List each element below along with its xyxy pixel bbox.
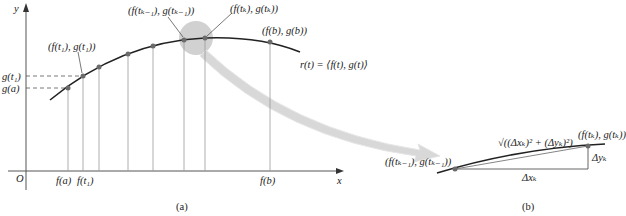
caption-a: (a)	[176, 201, 188, 213]
label-p1: (f(t₁), g(t₁))	[48, 41, 96, 53]
x-tick-f-t1: f(t₁)	[77, 175, 94, 187]
partition-lines	[68, 38, 270, 171]
label-pk: (f(tₖ), g(tₖ))	[230, 3, 278, 15]
y-axis-label: y	[13, 3, 19, 14]
dy-label: Δyₖ	[591, 152, 607, 163]
origin-label: O	[16, 173, 24, 184]
y-axis-arrow-icon	[23, 3, 29, 12]
caption-b: (b)	[522, 201, 535, 213]
x-axis-arrow-icon	[336, 168, 344, 174]
y-tick-g-a: g(a)	[2, 83, 20, 95]
dx-label: Δxₖ	[521, 172, 537, 183]
curve-label: r(t) = ⟨f(t), g(t)⟩	[300, 59, 368, 71]
label-b-right: (f(tₖ), g(tₖ))	[578, 129, 626, 141]
x-axis-label: x	[336, 175, 342, 186]
x-tick-f-a: f(a)	[56, 175, 72, 187]
label-b-left: (f(tₖ₋₁), g(tₖ₋₁))	[385, 156, 452, 168]
arc-length-diagram: (f(t₁), g(t₁)) (f(tₖ₋₁), g(tₖ₋₁)) (f(tₖ)…	[0, 0, 626, 216]
y-tick-g-t1: g(t₁)	[2, 71, 21, 83]
x-tick-f-b: f(b)	[260, 175, 276, 187]
label-pb: (f(b), g(b))	[262, 25, 307, 37]
segment-length-label: √((Δxₖ)² + (Δyₖ)²)	[498, 137, 573, 149]
label-pk-minus-1: (f(tₖ₋₁), g(tₖ₋₁))	[128, 5, 195, 17]
